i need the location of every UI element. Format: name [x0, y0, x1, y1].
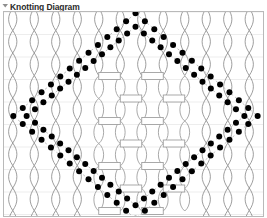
diamond-dot	[245, 105, 251, 111]
diamond-dot	[99, 51, 105, 57]
thread-strand	[202, 211, 206, 217]
thread-strand	[228, 211, 232, 217]
thread-strand	[224, 166, 228, 189]
thread-strand	[228, 143, 232, 166]
knotting-diagram-canvas[interactable]	[3, 11, 264, 217]
thread-strand	[224, 53, 228, 76]
thread-strand	[159, 12, 163, 31]
diamond-dot	[40, 127, 46, 133]
thread-strand	[202, 121, 206, 144]
diamond-dot	[24, 113, 30, 119]
diamond-dot	[57, 152, 63, 158]
thread-strand	[77, 121, 81, 144]
thread-strand	[30, 166, 34, 189]
thread-strand	[202, 12, 206, 31]
thread-strand	[13, 166, 17, 189]
thread-strand	[77, 76, 81, 99]
thread-strand	[77, 211, 81, 217]
thread-strand	[163, 53, 167, 76]
knot-bar	[120, 95, 142, 102]
thread-strand	[9, 53, 13, 76]
diamond-dot	[95, 42, 101, 48]
knotting-diagram-panel: Knotting Diagram	[0, 0, 267, 218]
triangle-down-icon[interactable]	[1, 0, 10, 11]
diagram-svg	[4, 12, 263, 216]
diamond-dot	[166, 51, 172, 57]
thread-strand	[9, 143, 13, 166]
diamond-dot	[29, 129, 35, 135]
thread-strand	[73, 98, 77, 121]
diamond-dot	[217, 145, 223, 151]
diamond-dot	[151, 26, 157, 32]
knot-bar	[163, 140, 185, 147]
diamond-dot	[67, 160, 73, 166]
knot-bar	[120, 185, 142, 192]
thread-strand	[77, 12, 81, 31]
thread-strand	[202, 188, 206, 211]
diamond-dot	[208, 74, 214, 80]
diamond-dot	[124, 195, 130, 201]
diamond-dot	[183, 65, 189, 71]
thread-strand	[138, 53, 142, 76]
panel-header[interactable]: Knotting Diagram	[0, 0, 267, 11]
thread-strand	[228, 12, 232, 31]
thread-strand	[9, 211, 13, 217]
diamond-dot	[116, 189, 122, 195]
thread-strand	[95, 31, 99, 54]
thread-strand	[249, 143, 253, 166]
diamond-dot	[39, 137, 45, 143]
diamond-dot	[198, 66, 204, 72]
thread-strand	[99, 12, 103, 31]
diamond-dot	[66, 79, 72, 85]
diamond-dot	[179, 50, 185, 56]
knot-bar	[163, 95, 185, 102]
thread-strand	[13, 53, 17, 76]
thread-strand	[249, 188, 253, 211]
diamond-dot	[216, 92, 222, 98]
thread-strand	[52, 188, 56, 211]
thread-strand	[228, 188, 232, 211]
diamond-dot	[99, 175, 105, 181]
thread-strand	[77, 143, 81, 166]
thread-strand	[52, 98, 56, 121]
diamond-dot	[191, 154, 197, 160]
thread-strand	[228, 31, 232, 54]
diamond-dot	[104, 34, 110, 40]
thread-strand	[245, 143, 249, 166]
diamond-dot	[225, 99, 231, 105]
thread-strand	[34, 143, 38, 166]
diamond-dot	[74, 154, 80, 160]
diamond-dot	[57, 140, 63, 146]
thread-strand	[249, 76, 253, 99]
thread-strand	[77, 188, 81, 211]
thread-strand	[13, 12, 17, 31]
diamond-dot	[191, 72, 197, 78]
thread-strand	[77, 31, 81, 54]
thread-strand	[206, 166, 210, 189]
diamond-dot	[133, 202, 139, 208]
diamond-dot	[141, 195, 147, 201]
thread-strand	[30, 53, 34, 76]
thread-strand	[202, 98, 206, 121]
thread-strand	[202, 31, 206, 54]
thread-strand	[206, 98, 210, 121]
diamond-dot	[199, 79, 205, 85]
diamond-dot	[236, 97, 242, 103]
diamond-dot	[32, 120, 38, 126]
diamond-dot	[170, 42, 176, 48]
knot-bar	[99, 118, 121, 125]
thread-strand	[206, 12, 210, 31]
diamond-dot	[66, 147, 72, 153]
knot-bar	[120, 140, 142, 147]
diamond-dot	[20, 121, 26, 127]
thread-strand	[30, 211, 34, 217]
diamond-dot	[149, 37, 155, 43]
diamond-dot	[91, 58, 97, 64]
thread-strand	[34, 166, 38, 189]
thread-strand	[30, 188, 34, 211]
diamond-dot	[161, 192, 167, 198]
diamond-dot	[123, 208, 129, 214]
thread-strand	[34, 188, 38, 211]
diamond-dot	[86, 50, 92, 56]
diamond-dot	[116, 37, 122, 43]
